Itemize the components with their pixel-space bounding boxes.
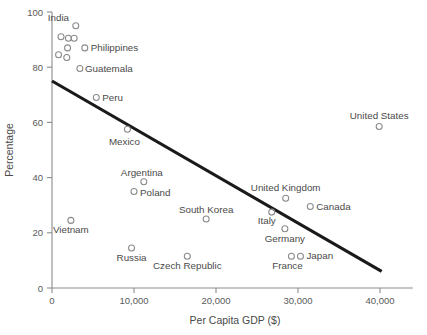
trend-line-segment bbox=[52, 81, 382, 271]
data-point-label: Italy bbox=[258, 215, 276, 226]
data-point-label: Guatemala bbox=[85, 63, 133, 74]
x-tick-label: 40,000 bbox=[365, 295, 394, 306]
data-point-marker bbox=[93, 95, 99, 101]
data-point-marker bbox=[68, 217, 74, 223]
data-point-marker bbox=[282, 226, 288, 232]
data-point-label: Japan bbox=[306, 250, 333, 261]
y-tick-label: 0 bbox=[38, 283, 43, 294]
scatter-chart: 010,00020,00030,00040,000 020406080100 I… bbox=[0, 0, 427, 335]
axes bbox=[52, 12, 413, 288]
data-point-marker bbox=[65, 45, 71, 51]
data-point-marker bbox=[131, 188, 137, 194]
data-point-label: Peru bbox=[102, 92, 123, 103]
y-tick-label: 20 bbox=[32, 227, 43, 238]
data-point-label: Russia bbox=[117, 252, 147, 263]
trend-line bbox=[52, 81, 382, 271]
data-point-marker bbox=[307, 204, 313, 210]
data-point-marker bbox=[64, 55, 70, 61]
chart-canvas: 010,00020,00030,00040,000 020406080100 I… bbox=[0, 0, 427, 335]
data-point-marker bbox=[283, 195, 289, 201]
data-point-marker bbox=[65, 35, 71, 41]
data-point-label: Czech Republic bbox=[153, 260, 222, 271]
data-point-marker bbox=[77, 66, 83, 72]
data-point-marker bbox=[124, 126, 130, 132]
data-point-label: Canada bbox=[316, 201, 351, 212]
y-axis-ticks: 020406080100 bbox=[27, 7, 52, 294]
data-point-marker bbox=[376, 124, 382, 130]
data-point-label: South Korea bbox=[179, 204, 234, 215]
data-point-label: Poland bbox=[140, 187, 171, 198]
y-tick-label: 60 bbox=[32, 117, 43, 128]
data-point-marker bbox=[203, 216, 209, 222]
data-points: IndiaPhilippinesGuatemalaPeruMexicoArgen… bbox=[48, 12, 409, 271]
data-point-label: Germany bbox=[265, 233, 305, 244]
data-point-label: France bbox=[272, 260, 303, 271]
data-point-marker bbox=[141, 179, 147, 185]
x-tick-label: 10,000 bbox=[119, 295, 148, 306]
y-tick-label: 100 bbox=[27, 7, 43, 18]
data-point-marker bbox=[56, 52, 62, 58]
data-point-label: United States bbox=[350, 110, 409, 121]
data-point-marker bbox=[82, 45, 88, 51]
y-axis-title: Percentage bbox=[3, 123, 15, 177]
data-point-label: Vietnam bbox=[53, 224, 89, 235]
x-tick-label: 30,000 bbox=[283, 295, 312, 306]
data-point-marker bbox=[58, 34, 64, 40]
data-point-marker bbox=[129, 245, 135, 251]
data-point-label: United Kingdom bbox=[251, 182, 321, 193]
x-axis-ticks: 010,00020,00030,00040,000 bbox=[49, 288, 394, 306]
data-point-label: Philippines bbox=[91, 42, 138, 53]
y-tick-label: 80 bbox=[32, 62, 43, 73]
y-tick-label: 40 bbox=[32, 172, 43, 183]
data-point-marker bbox=[288, 253, 294, 259]
x-axis-title: Per Capita GDP ($) bbox=[190, 314, 281, 326]
data-point-label: Mexico bbox=[109, 136, 141, 147]
x-tick-label: 20,000 bbox=[201, 295, 230, 306]
data-point-marker bbox=[297, 253, 303, 259]
data-point-marker bbox=[184, 253, 190, 259]
data-point-marker bbox=[73, 23, 79, 29]
x-tick-label: 0 bbox=[49, 295, 54, 306]
data-point-label: Argentina bbox=[121, 167, 163, 178]
data-point-label: India bbox=[48, 12, 70, 23]
data-point-marker bbox=[71, 35, 77, 41]
